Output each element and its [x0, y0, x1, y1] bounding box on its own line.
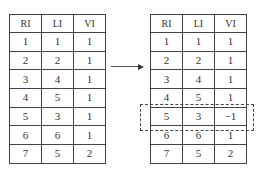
- cell: 6: [42, 126, 74, 145]
- arrow-line: [111, 66, 140, 67]
- header-cell: VI: [215, 15, 247, 33]
- cell: 7: [151, 145, 183, 164]
- cell: 1: [74, 33, 106, 52]
- cell: 4: [42, 70, 74, 89]
- cell: 3: [10, 70, 42, 89]
- left-table: RI LI VI 1 1 1 2 2 1 3 4 1 4 5 1 5 3 1 6…: [9, 14, 106, 164]
- cell: 5: [42, 89, 74, 108]
- table-row: 2 2 1: [151, 51, 247, 70]
- cell: 2: [151, 51, 183, 70]
- table-row: 3 4 1: [10, 70, 106, 89]
- cell: 1: [74, 107, 106, 126]
- cell: 3: [42, 107, 74, 126]
- table-row: 5 3 1: [10, 107, 106, 126]
- header-cell: RI: [151, 15, 183, 33]
- table-row: 4 5 1: [10, 89, 106, 108]
- arrow-right-icon: [138, 64, 144, 70]
- cell: 5: [42, 145, 74, 164]
- cell: 1: [151, 33, 183, 52]
- cell: 6: [10, 126, 42, 145]
- cell: 1: [74, 89, 106, 108]
- cell: 1: [215, 70, 247, 89]
- table-row: 7 5 2: [10, 145, 106, 164]
- cell: 2: [74, 145, 106, 164]
- table-row: 1 1 1: [151, 33, 247, 52]
- left-table-header: RI LI VI: [10, 15, 106, 33]
- cell: 1: [215, 51, 247, 70]
- header-cell: LI: [183, 15, 215, 33]
- cell: 2: [10, 51, 42, 70]
- right-table: RI LI VI 1 1 1 2 2 1 3 4 1 4 5 1 5 3 −1 …: [150, 14, 247, 164]
- cell: 1: [183, 33, 215, 52]
- cell: 5: [10, 107, 42, 126]
- cell: 5: [183, 145, 215, 164]
- table-row: 2 2 1: [10, 51, 106, 70]
- right-table-header: RI LI VI: [151, 15, 247, 33]
- cell: 2: [183, 51, 215, 70]
- cell: 1: [42, 33, 74, 52]
- cell: 3: [151, 70, 183, 89]
- table-row: 1 1 1: [10, 33, 106, 52]
- header-cell: RI: [10, 15, 42, 33]
- highlight-dashed-box: [140, 104, 254, 131]
- table-row: 6 6 1: [10, 126, 106, 145]
- cell: 4: [183, 70, 215, 89]
- cell: 7: [10, 145, 42, 164]
- cell: 4: [10, 89, 42, 108]
- table-row: 7 5 2: [151, 145, 247, 164]
- cell: 1: [74, 51, 106, 70]
- header-cell: VI: [74, 15, 106, 33]
- cell: 1: [74, 126, 106, 145]
- cell: 2: [215, 145, 247, 164]
- header-cell: LI: [42, 15, 74, 33]
- cell: 1: [74, 70, 106, 89]
- cell: 2: [42, 51, 74, 70]
- table-row: 3 4 1: [151, 70, 247, 89]
- cell: 1: [10, 33, 42, 52]
- cell: 1: [215, 33, 247, 52]
